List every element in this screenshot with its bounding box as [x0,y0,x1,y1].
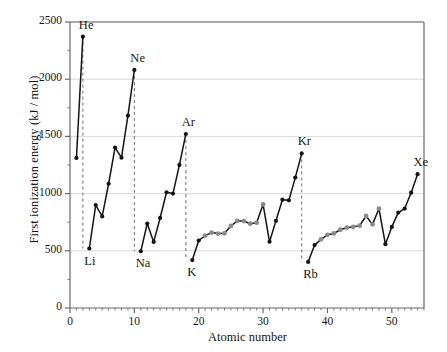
element-label-ne: Ne [130,51,145,66]
y-tick-label: 2500 [28,14,62,26]
x-tick-label: 50 [377,315,407,327]
y-tick-label: 0 [28,300,62,312]
element-label-ar: Ar [182,115,195,130]
gridlines [70,22,424,251]
axis-ticks [65,22,424,313]
element-label-he: He [79,18,94,33]
element-label-rb: Rb [303,267,318,282]
element-label-k: K [187,265,196,280]
ionization-energy-points [74,35,419,264]
ionization-energy-chart: First ionization energy (kJ / mol) Atomi… [0,0,447,352]
y-tick-label: 500 [28,243,62,255]
y-tick-label: 1000 [28,186,62,198]
x-tick-label: 0 [55,315,85,327]
plot-area [0,0,447,352]
y-tick-label: 1500 [28,128,62,140]
x-tick-label: 40 [312,315,342,327]
element-label-kr: Kr [298,134,311,149]
ionization-energy-line [76,37,417,262]
element-label-na: Na [136,256,151,271]
x-tick-label: 10 [119,315,149,327]
y-tick-label: 2000 [28,71,62,83]
x-tick-label: 20 [184,315,214,327]
x-tick-label: 30 [248,315,278,327]
axis-frame [70,22,424,308]
element-label-li: Li [84,254,95,269]
element-label-xe: Xe [414,155,429,170]
